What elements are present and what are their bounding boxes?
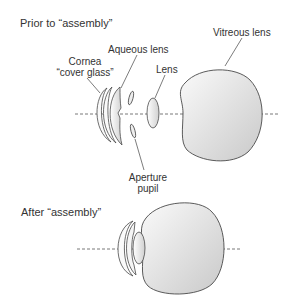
aperture-upper <box>127 91 134 106</box>
lens-shape <box>147 98 159 128</box>
cornea-label: Cornea “cover glass” <box>50 56 120 78</box>
cornea-label-line1: Cornea <box>50 56 120 67</box>
aperture-lower <box>129 124 136 139</box>
aqueous-leader <box>121 55 137 88</box>
aperture-label: Aperture pupil <box>118 172 178 194</box>
aqueous-label: Aqueous lens <box>108 44 169 55</box>
lens-leader <box>155 75 165 98</box>
vitreous-label: Vitreous lens <box>213 27 271 38</box>
lens-label: Lens <box>156 64 178 75</box>
aperture-leader <box>135 139 144 170</box>
top-panel-title: Prior to “assembly” <box>20 18 112 29</box>
vitreous-leader <box>225 38 242 66</box>
bottom-panel-title: After “assembly” <box>21 207 101 218</box>
aperture-label-line1: Aperture <box>118 172 178 183</box>
cornea-label-line2: “cover glass” <box>50 67 120 78</box>
vitreous-lens-shape <box>180 70 262 161</box>
bottom-diagram <box>77 203 240 294</box>
assembled-lens <box>133 232 145 264</box>
cornea-leader <box>87 78 100 93</box>
assembled-vitreous <box>141 203 224 294</box>
aperture-label-line2: pupil <box>118 183 178 194</box>
